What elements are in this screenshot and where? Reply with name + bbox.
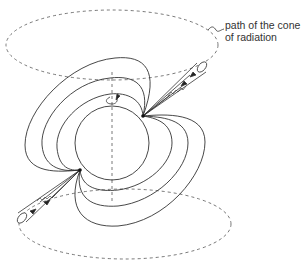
label-leader-line bbox=[208, 27, 224, 31]
north-magnetic-pole bbox=[141, 114, 145, 118]
radiation-beam-upper bbox=[143, 60, 209, 116]
rotation-arrow-icon bbox=[106, 94, 120, 104]
radiation-beam-lower bbox=[15, 170, 80, 225]
cone-path-label-line2: of radiation bbox=[225, 31, 300, 43]
cone-path-label-line1: path of the cone bbox=[225, 19, 300, 31]
cone-path-label: path of the cone of radiation bbox=[225, 19, 300, 43]
cone-path-upper bbox=[6, 10, 218, 80]
south-magnetic-pole bbox=[78, 168, 82, 172]
cone-path-lower bbox=[19, 189, 231, 259]
